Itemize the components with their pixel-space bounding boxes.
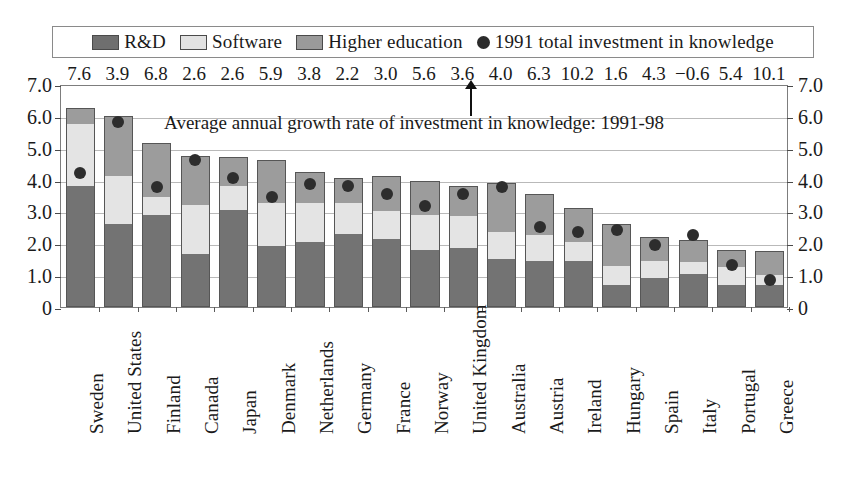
category-label: Germany <box>354 363 376 434</box>
bar-hungary <box>602 224 631 307</box>
category-label: Denmark <box>278 363 300 434</box>
y-axis-label-left: 0 <box>8 298 52 318</box>
growth-rate-value: 3.0 <box>367 62 405 86</box>
chart-figure: R&D Software Higher education 1991 total… <box>0 0 862 487</box>
legend-item-higher-education: Higher education <box>296 31 463 53</box>
bar-australia <box>487 183 516 307</box>
bar-austria <box>525 194 554 307</box>
bar-canada <box>181 156 210 307</box>
growth-rate-value: 10.1 <box>750 62 788 86</box>
data-point-1991-total <box>611 224 623 236</box>
axis-tick-right <box>787 245 793 246</box>
legend-swatch-rd-icon <box>92 35 119 50</box>
legend-circle-marker-icon <box>477 36 490 49</box>
growth-rate-value: 6.8 <box>137 62 175 86</box>
data-point-1991-total <box>687 229 699 241</box>
bar-segment-rd <box>372 239 401 307</box>
bar-segment-rd <box>181 254 210 307</box>
data-point-1991-total <box>266 191 278 203</box>
data-point-1991-total <box>534 221 546 233</box>
axis-tick-left <box>55 277 61 278</box>
category-label: Italy <box>699 399 721 434</box>
category-label: Australia <box>508 363 530 434</box>
bar-segment-rd <box>449 248 478 307</box>
category-label: Canada <box>201 376 223 434</box>
bar-ireland <box>564 208 593 307</box>
axis-tick-right <box>787 118 793 119</box>
category-label: Japan <box>239 390 261 434</box>
bar-segment-software <box>372 211 401 238</box>
data-point-1991-total <box>342 180 354 192</box>
y-axis-label-right: 7.0 <box>798 75 842 95</box>
bar-segment-software <box>219 186 248 210</box>
y-axis-label-left: 7.0 <box>8 75 52 95</box>
bar-segment-software <box>640 261 669 279</box>
bar-segment-rd <box>257 246 286 307</box>
category-label: Norway <box>431 372 453 434</box>
bar-united-states <box>104 116 133 307</box>
bar-segment-software <box>487 232 516 259</box>
bar-finland <box>142 143 171 307</box>
chart-legend: R&D Software Higher education 1991 total… <box>52 26 814 58</box>
axis-tick-left <box>55 118 61 119</box>
bar-segment-software <box>564 242 593 261</box>
bar-germany <box>334 178 363 307</box>
annotation-text: Average annual growth rate of investment… <box>164 112 664 134</box>
category-label: Sweden <box>86 373 108 434</box>
category-label: Hungary <box>623 367 645 434</box>
category-label: Greece <box>776 380 798 434</box>
category-label: Finland <box>163 375 185 434</box>
legend-item-software: Software <box>180 31 282 53</box>
data-point-1991-total <box>572 226 584 238</box>
bar-netherlands <box>295 172 324 307</box>
bar-segment-rd <box>525 261 554 307</box>
legend-label-higher-education: Higher education <box>328 31 463 53</box>
category-label: France <box>393 382 415 434</box>
data-point-1991-total <box>726 259 738 271</box>
legend-label-total-1991: 1991 total investment in knowledge <box>495 31 774 53</box>
y-axis-label-right: 4.0 <box>798 171 842 191</box>
bar-segment-software <box>410 215 439 250</box>
category-label: United States <box>124 331 146 434</box>
category-label: Spain <box>661 390 683 434</box>
axis-tick-right <box>787 213 793 214</box>
y-axis-label-left: 1.0 <box>8 266 52 286</box>
growth-rate-value: 2.2 <box>328 62 366 86</box>
data-point-1991-total <box>419 200 431 212</box>
growth-rate-value: 5.9 <box>252 62 290 86</box>
bar-segment-rd <box>717 285 746 307</box>
bar-segment-software <box>602 266 631 285</box>
bar-italy <box>679 240 708 307</box>
bar-segment-rd <box>334 234 363 307</box>
bar-segment-software <box>334 203 363 233</box>
bar-segment-rd <box>219 210 248 307</box>
bar-segment-higher-education <box>66 108 95 124</box>
bar-sweden <box>66 108 95 307</box>
bar-segment-software <box>104 176 133 224</box>
category-label: Netherlands <box>316 341 338 434</box>
y-axis-label-left: 3.0 <box>8 202 52 222</box>
legend-item-total-1991: 1991 total investment in knowledge <box>477 31 774 53</box>
legend-item-rd: R&D <box>92 31 166 53</box>
y-axis-label-left: 4.0 <box>8 171 52 191</box>
axis-tick-left <box>55 86 61 87</box>
bar-segment-rd <box>602 285 631 307</box>
growth-rate-value: 4.3 <box>635 62 673 86</box>
y-axis-label-left: 2.0 <box>8 234 52 254</box>
x-axis-tick <box>789 307 790 312</box>
bar-denmark <box>257 160 286 307</box>
category-label: United Kingdom <box>469 304 491 434</box>
growth-rate-value: 5.4 <box>711 62 749 86</box>
legend-label-rd: R&D <box>124 31 166 53</box>
bar-segment-rd <box>755 285 784 307</box>
data-point-1991-total <box>764 274 776 286</box>
bar-segment-software <box>449 216 478 248</box>
bar-segment-rd <box>487 259 516 307</box>
growth-rate-value: 2.6 <box>213 62 251 86</box>
legend-swatch-higher-education-icon <box>296 35 323 50</box>
bar-segment-rd <box>66 186 95 307</box>
growth-rate-value: −0.6 <box>673 62 711 86</box>
growth-rate-value: 3.8 <box>290 62 328 86</box>
y-axis-label-right: 1.0 <box>798 266 842 286</box>
y-axis-label-left: 5.0 <box>8 139 52 159</box>
